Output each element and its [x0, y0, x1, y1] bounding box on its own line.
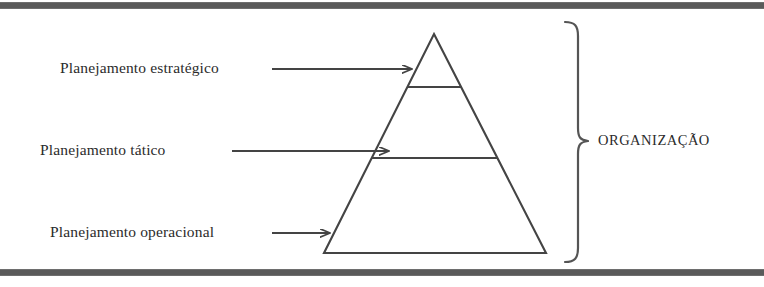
label-planejamento-tatico: Planejamento tático	[40, 142, 166, 158]
diagram-page: Planejamento estratégico Planejamento tá…	[0, 0, 764, 287]
pyramid-outline	[324, 34, 546, 253]
label-organizacao: ORGANIZAÇÃO	[598, 133, 710, 148]
label-planejamento-operacional: Planejamento operacional	[50, 224, 214, 240]
label-planejamento-estrategico: Planejamento estratégico	[60, 60, 219, 76]
organization-brace-icon	[565, 22, 588, 262]
